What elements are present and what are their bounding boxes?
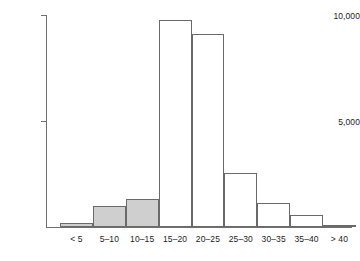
- x-axis-label: 20–25: [192, 234, 225, 244]
- x-axis-label: 25–30: [224, 234, 257, 244]
- x-axis-label: 5–10: [93, 234, 126, 244]
- histogram-bar: [93, 206, 126, 227]
- plot-area: 10,000 5,000 < 55–1010–1515–2020–2525–30…: [0, 0, 360, 261]
- x-axis-label: 35–40: [290, 234, 323, 244]
- histogram-bar: [192, 34, 225, 227]
- histogram-bar: [224, 173, 257, 227]
- x-axis-label: < 5: [60, 234, 93, 244]
- histogram-bar: [126, 199, 159, 227]
- histogram-bar: [257, 203, 290, 227]
- histogram-bar: [323, 225, 356, 227]
- histogram-bar: [60, 223, 93, 227]
- x-axis-label: 30–35: [257, 234, 290, 244]
- histogram-bar: [290, 215, 323, 227]
- histogram-chart: 10,000 5,000 < 55–1010–1515–2020–2525–30…: [0, 0, 360, 261]
- x-axis-label: > 40: [323, 234, 356, 244]
- x-axis-label: 15–20: [159, 234, 192, 244]
- x-axis-labels: < 55–1010–1515–2020–2525–3030–3535–40> 4…: [0, 234, 360, 248]
- bars-layer: [0, 0, 360, 261]
- histogram-bar: [159, 20, 192, 227]
- x-axis-label: 10–15: [126, 234, 159, 244]
